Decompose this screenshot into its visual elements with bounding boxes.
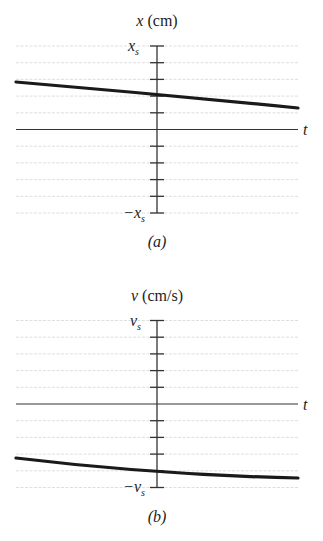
panel-a-top-tick-label: xs (127, 37, 139, 57)
panel-a-chart: x (cm) xs −xs t (a) (16, 12, 308, 251)
panel-b-bottom-tick-label: −vs (123, 478, 145, 498)
panel-a-axis-title: x (cm) (135, 12, 177, 30)
panel-b-top-tick-label: vs (130, 312, 141, 332)
panel-b-caption: (b) (148, 508, 167, 526)
panel-a-bottom-tick-label: −xs (123, 204, 145, 224)
panel-a-caption: (a) (148, 233, 167, 251)
panel-b-t-label: t (303, 396, 308, 413)
panel-b-chart: v (cm/s) vs −vs t (b) (16, 287, 308, 526)
panel-b-axis-title: v (cm/s) (131, 287, 183, 305)
figure: x (cm) xs −xs t (a) (0, 0, 323, 541)
panel-a-t-label: t (303, 121, 308, 138)
